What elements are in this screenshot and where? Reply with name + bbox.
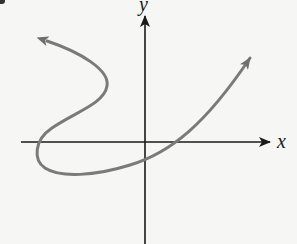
x-axis-label: x	[277, 131, 286, 151]
y-axis-label: y	[139, 0, 148, 14]
graph-figure	[0, 0, 297, 244]
parametric-curve	[37, 41, 250, 174]
